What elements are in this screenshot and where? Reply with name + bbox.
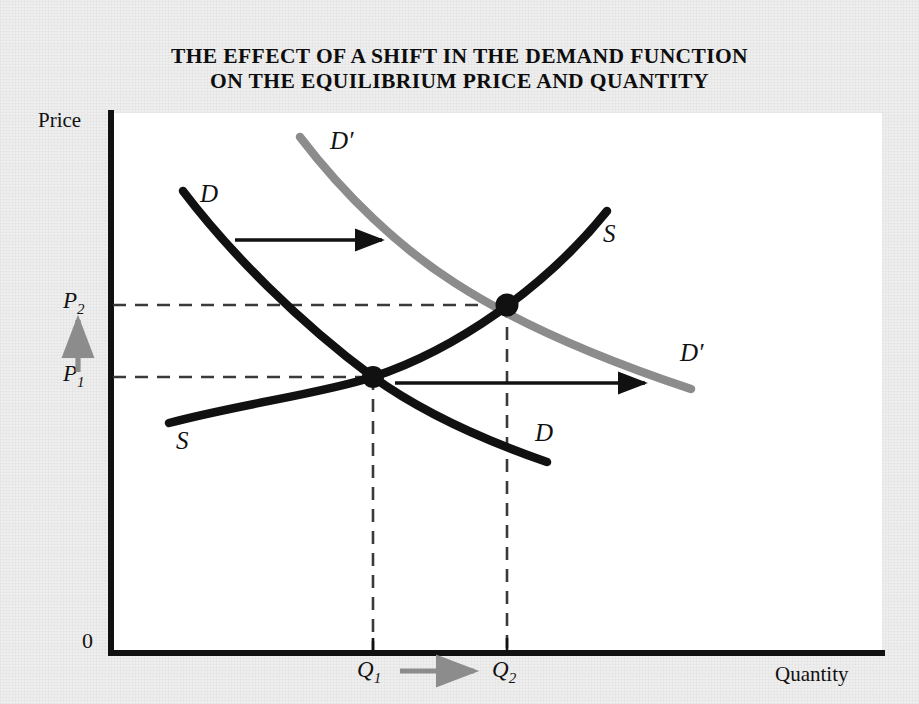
quantity-tick-q1-subscript: 1 [374, 670, 382, 686]
price-tick-p1: P1 [63, 361, 85, 391]
price-tick-p2: P2 [63, 288, 85, 318]
price-tick-p1-subscript: 1 [77, 374, 85, 390]
curve-label-supply-top: S [603, 220, 616, 248]
figure-page: THE EFFECT OF A SHIFT IN THE DEMAND FUNC… [0, 0, 919, 704]
quantity-tick-q2: Q2 [492, 657, 516, 687]
origin-label: 0 [82, 628, 93, 654]
quantity-tick-q2-letter: Q [492, 657, 509, 682]
curve-label-demand-shifted-right: D′ [680, 339, 704, 367]
chart-title-line-1: THE EFFECT OF A SHIFT IN THE DEMAND FUNC… [0, 44, 919, 69]
y-axis-label: Price [38, 108, 81, 133]
x-axis-line [108, 650, 885, 656]
quantity-tick-q2-subscript: 2 [509, 670, 517, 686]
price-tick-p1-letter: P [63, 361, 77, 386]
curve-label-demand-shifted-top: D′ [330, 127, 354, 155]
x-axis-label: Quantity [775, 662, 849, 687]
chart-title-line-2: ON THE EQUILIBRIUM PRICE AND QUANTITY [0, 69, 919, 94]
curve-label-demand-top: D [200, 180, 218, 208]
price-tick-p2-letter: P [63, 288, 77, 313]
quantity-tick-q1-letter: Q [357, 657, 374, 682]
curve-label-demand-bottom: D [535, 419, 553, 447]
y-axis-line [108, 110, 114, 655]
curve-label-supply-bottom: S [176, 427, 189, 455]
chart-title: THE EFFECT OF A SHIFT IN THE DEMAND FUNC… [0, 44, 919, 95]
price-tick-p2-subscript: 2 [77, 301, 85, 317]
quantity-tick-q1: Q1 [357, 657, 381, 687]
plot-area [110, 113, 882, 653]
